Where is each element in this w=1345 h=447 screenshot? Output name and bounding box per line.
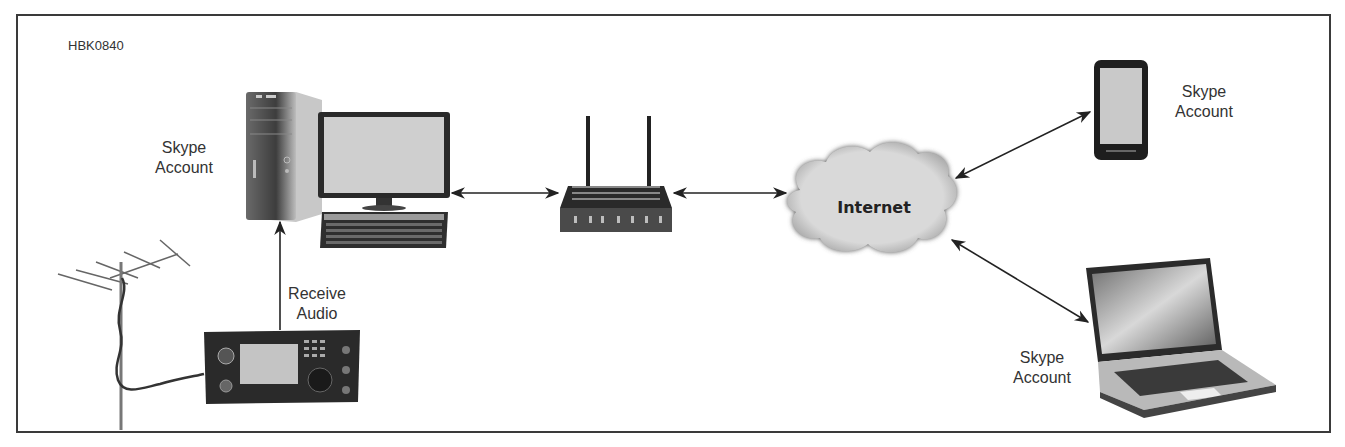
laptop-skype-label: Skype Account: [1000, 348, 1084, 388]
receive-audio-label: Receive Audio: [282, 284, 352, 324]
keyboard-icon: [320, 212, 448, 248]
radio-transceiver-icon: [204, 330, 360, 404]
internet-phone-arrow: [956, 112, 1090, 178]
network-diagram: Internet: [0, 0, 1345, 447]
internet-label: Internet: [837, 198, 911, 217]
phone-skype-label: Skype Account: [1162, 82, 1246, 122]
antenna-icon: [58, 240, 204, 430]
monitor-icon: [318, 112, 450, 211]
router-icon: [560, 116, 672, 232]
laptop-icon: [1086, 258, 1276, 418]
smartphone-icon: [1094, 60, 1148, 160]
desktop-skype-label: Skype Account: [142, 138, 226, 178]
internet-laptop-arrow: [952, 240, 1088, 322]
desktop-tower-icon: [246, 92, 322, 222]
internet-cloud-icon: Internet: [787, 142, 956, 252]
